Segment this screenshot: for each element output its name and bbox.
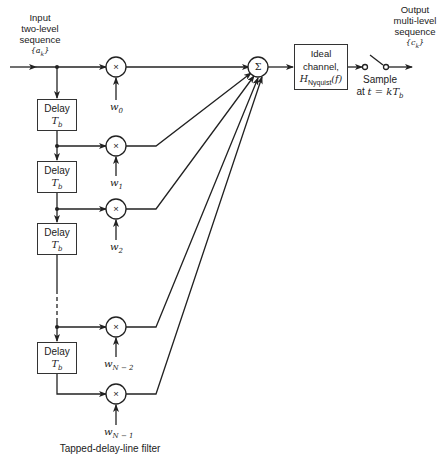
multiplier-n2: × <box>106 321 126 332</box>
weight-w1: w1 <box>110 177 123 191</box>
delay-box-2: Delay Tb <box>37 161 77 193</box>
ideal-channel-box: Ideal channel, HNyquist(f) <box>294 44 348 90</box>
multiplier-2: × <box>106 203 126 214</box>
summer: Σ <box>248 61 268 72</box>
multiplier-1: × <box>106 140 126 151</box>
weight-wn1: wN − 1 <box>104 426 133 440</box>
multiplier-n1: × <box>106 388 126 399</box>
multiplier-0: × <box>106 61 126 72</box>
weight-w2: w2 <box>110 241 123 255</box>
input-label: Input two-level sequence {ak} <box>10 12 70 59</box>
delay-box-1: Delay Tb <box>37 99 77 131</box>
weight-w0: w0 <box>110 101 123 115</box>
output-label: Output multi-level sequence {ck} <box>384 4 446 51</box>
caption: Tapped-delay-line filter <box>40 443 180 454</box>
sampler-label: Sample at t = kTb <box>350 74 410 102</box>
delay-box-3: Delay Tb <box>37 223 77 255</box>
delay-box-4: Delay Tb <box>37 342 77 374</box>
weight-wn2: wN − 2 <box>104 358 133 372</box>
